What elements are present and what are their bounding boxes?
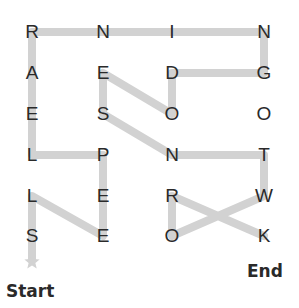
grid-letter: L [20,145,44,165]
grid-letter: L [20,186,44,206]
grid-letter: K [252,226,276,246]
grid-letter: D [160,63,184,83]
grid-letter: E [20,104,44,124]
grid-letter: A [20,63,44,83]
start-star-icon [24,254,39,269]
grid-letter: N [91,22,115,42]
grid-letter: O [160,226,184,246]
grid-letter: P [91,145,115,165]
grid-letter: R [160,186,184,206]
grid-letter: I [160,22,184,42]
grid-letter: T [252,145,276,165]
grid-letter: W [252,186,276,206]
grid-letter: O [160,104,184,124]
grid-letter: E [91,226,115,246]
grid-letter: O [252,104,276,124]
grid-letter: E [91,186,115,206]
grid-letter: N [160,145,184,165]
word-path-puzzle: RNINAEDGESOOLPNTLERWSEOK Start End [0,0,299,308]
grid-letter: S [91,104,115,124]
start-label: Start [6,281,54,301]
grid-letter: R [20,22,44,42]
grid-letter: N [252,22,276,42]
grid-letter: S [20,226,44,246]
end-label: End [247,261,283,281]
grid-letter: E [91,63,115,83]
grid-letter: G [252,63,276,83]
